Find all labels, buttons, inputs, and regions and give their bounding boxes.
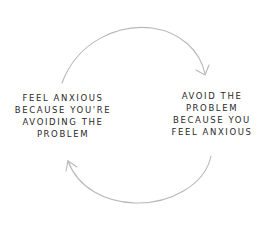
node-right-line-1: AVOID THE [150, 90, 266, 102]
node-left-line-1: FEEL ANXIOUS [2, 92, 124, 104]
node-left-line-3: AVOIDING THE [2, 116, 124, 128]
node-avoid-problem: AVOID THE PROBLEM BECAUSE YOU FEEL ANXIO… [150, 90, 266, 138]
node-right-line-4: FEEL ANXIOUS [150, 126, 266, 138]
top-arrow [62, 27, 209, 83]
node-left-line-4: PROBLEM [2, 128, 124, 140]
bottom-arrow [66, 156, 211, 203]
node-left-line-2: BECAUSE YOU'RE [2, 104, 124, 116]
node-right-line-3: BECAUSE YOU [150, 114, 266, 126]
node-right-line-2: PROBLEM [150, 102, 266, 114]
node-feel-anxious: FEEL ANXIOUS BECAUSE YOU'RE AVOIDING THE… [2, 92, 124, 140]
